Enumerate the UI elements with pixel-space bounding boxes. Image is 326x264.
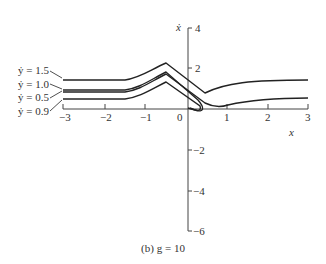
x-ticks: [63, 104, 308, 109]
phase-plot: −3 −2 −1 0 1 2 3 4 2 −2 −4 −6 x ẋ ẏ = 1.…: [0, 0, 326, 264]
y-tick-label: −4: [193, 185, 205, 197]
curve-ydot-0.9: [63, 82, 200, 110]
legend-label: ẏ = 0.9: [18, 105, 49, 117]
label-arrows: [50, 71, 62, 111]
y-tick-label: −6: [193, 225, 205, 237]
trajectories: [63, 63, 308, 111]
legend-label: ẏ = 0.5: [18, 91, 49, 103]
figure-caption: (b) g = 10: [0, 242, 326, 254]
x-tick-label: −3: [59, 111, 71, 123]
x-tick-label: 1: [224, 111, 230, 123]
y-tick-label: −2: [193, 144, 205, 156]
legend-label: ẏ = 1.5: [18, 64, 49, 76]
y-axis-label: ẋ: [175, 21, 181, 33]
x-tick-label: −2: [100, 111, 112, 123]
x-tick-label: 3: [305, 111, 311, 123]
y-tick-label: 4: [195, 22, 201, 34]
legend-label: ẏ = 1.0: [18, 78, 49, 90]
x-tick-label: 2: [265, 111, 271, 123]
y-ticks: [188, 28, 192, 231]
x-axis-label: x: [288, 126, 294, 138]
x-tick-label: −1: [140, 111, 152, 123]
y-tick-label: 2: [195, 62, 201, 74]
x-tick-label: 0: [177, 111, 183, 123]
